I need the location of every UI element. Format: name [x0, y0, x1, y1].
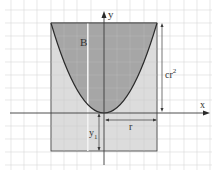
height-dimension	[161, 23, 164, 112]
x-axis-label: x	[200, 99, 205, 110]
height-label: cr2	[165, 67, 177, 80]
y-axis-arrow-icon	[102, 11, 107, 18]
y-axis-label: y	[108, 8, 114, 20]
parabola-region-diagram: B y x cr2 r y1	[0, 0, 219, 177]
region-label: B	[80, 36, 87, 48]
x-axis-arrow-icon	[203, 111, 210, 116]
